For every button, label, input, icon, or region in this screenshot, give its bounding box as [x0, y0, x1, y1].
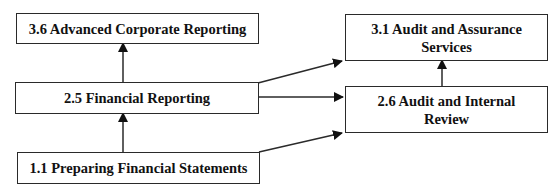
node-label: 3.1 Audit and Assurance Services: [368, 20, 525, 56]
arrow-25-to-31: [258, 61, 342, 83]
node-advanced-corporate-reporting: 3.6 Advanced Corporate Reporting: [16, 13, 259, 44]
node-label: 2.5 Financial Reporting: [64, 89, 210, 107]
node-label: 2.6 Audit and Internal Review: [374, 92, 519, 128]
arrow-11-to-26: [259, 133, 342, 152]
node-label: 1.1 Preparing Financial Statements: [29, 159, 247, 177]
diagram-canvas: 3.6 Advanced Corporate Reporting 2.5 Fin…: [0, 0, 560, 196]
node-financial-reporting: 2.5 Financial Reporting: [15, 82, 259, 114]
node-audit-and-assurance-services: 3.1 Audit and Assurance Services: [345, 14, 548, 61]
node-label: 3.6 Advanced Corporate Reporting: [29, 20, 247, 38]
node-audit-and-internal-review: 2.6 Audit and Internal Review: [345, 86, 548, 133]
node-preparing-financial-statements: 1.1 Preparing Financial Statements: [17, 152, 260, 184]
